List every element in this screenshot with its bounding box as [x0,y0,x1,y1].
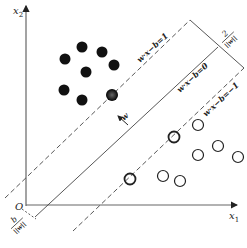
data-point [175,176,186,187]
hyperplanes [5,20,244,231]
origin-label: O [15,201,23,212]
y-axis-label: x2 [13,5,23,19]
data-point [109,60,120,71]
normal-label: w [119,110,132,123]
data-point [97,47,108,58]
upper-margin-line [5,20,190,198]
data-point [60,54,71,65]
offset-fraction: b ||w|| [5,211,29,235]
negative-class-points [125,120,244,187]
x-axis-label: x1 [229,210,239,224]
data-point [81,67,92,78]
svm-diagram: x2 x1 O w w·x−b=1 w·x−b=0 w·x−b=−1 2 ||w… [0,0,247,248]
data-point [59,85,70,96]
lower-margin-line [73,68,244,231]
data-point [233,152,244,163]
data-point [193,120,204,131]
data-point [158,171,169,182]
support-vector [169,132,180,143]
lower-hyperplane-label: w·x−b=−1 [201,80,241,118]
middle-hyperplane-label: w·x−b=0 [175,60,211,94]
data-point [77,95,88,106]
support-vector [125,174,136,185]
positive-class-points [59,42,120,106]
data-point [193,150,204,161]
margin-bracket [190,20,244,68]
support-vector [106,89,118,101]
data-point [77,42,88,53]
upper-hyperplane-label: w·x−b=1 [135,31,170,65]
offset-bracket [22,209,36,219]
data-point [213,141,224,152]
